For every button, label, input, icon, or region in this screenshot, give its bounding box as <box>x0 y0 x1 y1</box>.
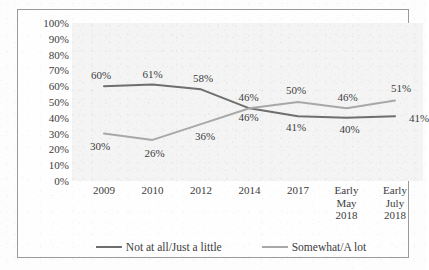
y-axis: 100%90%80%70%60%50%40%30%20%10%0% <box>35 19 72 181</box>
y-axis-tick-label: 50% <box>49 97 69 108</box>
data-label-not-at-all: 60% <box>91 70 111 81</box>
data-label-somewhat: 26% <box>144 147 164 158</box>
data-label-not-at-all: 40% <box>339 123 359 134</box>
data-label-somewhat: 50% <box>286 85 306 96</box>
chart-frame: 60%61%58%46%41%40%41%30%26%36%46%50%46%5… <box>17 9 409 258</box>
legend-label: Not at all/Just a little <box>126 241 222 253</box>
y-axis-tick-label: 60% <box>49 81 69 92</box>
legend-swatch-icon <box>262 246 288 248</box>
x-axis-tick-label: 2012 <box>190 184 212 197</box>
data-label-not-at-all: 41% <box>286 122 306 133</box>
x-axis-tick-label: 2014 <box>239 184 261 197</box>
x-axis-tick-label: 2010 <box>142 184 164 197</box>
data-label-somewhat: 30% <box>90 140 110 151</box>
data-label-somewhat: 36% <box>195 131 215 142</box>
data-label-not-at-all: 58% <box>193 73 213 84</box>
x-axis-tick-label: Early May 2018 <box>335 184 359 222</box>
x-axis-tick-label: Early July 2018 <box>383 184 407 222</box>
y-axis-tick-label: 20% <box>49 144 69 155</box>
y-axis-tick-label: 0% <box>54 176 69 187</box>
data-label-not-at-all: 46% <box>238 112 258 123</box>
x-axis-tick-label: 2017 <box>287 184 309 197</box>
y-axis-tick-label: 10% <box>49 160 69 171</box>
data-label-not-at-all: 61% <box>142 68 162 79</box>
legend-swatch-icon <box>96 246 122 248</box>
y-axis-tick-label: 80% <box>49 49 69 60</box>
x-axis: 20092010201220142017Early May 2018Early … <box>72 184 423 230</box>
y-axis-tick-label: 70% <box>49 65 69 76</box>
x-axis-tick-label: 2009 <box>93 184 115 197</box>
y-axis-tick-label: 40% <box>49 112 69 123</box>
y-axis-tick-label: 30% <box>49 128 69 139</box>
chart-legend: Not at all/Just a little Somewhat/A lot <box>35 238 427 256</box>
plot-area: 60%61%58%46%41%40%41%30%26%36%46%50%46%5… <box>72 23 423 181</box>
data-label-somewhat: 46% <box>337 92 357 103</box>
legend-item-not-at-all: Not at all/Just a little <box>96 241 222 253</box>
legend-item-somewhat: Somewhat/A lot <box>262 241 366 253</box>
legend-label: Somewhat/A lot <box>292 241 366 253</box>
y-axis-tick-label: 100% <box>43 18 69 29</box>
data-label-somewhat: 51% <box>391 83 411 94</box>
y-axis-tick-label: 90% <box>49 33 69 44</box>
data-label-somewhat: 46% <box>238 92 258 103</box>
data-label-not-at-all: 41% <box>409 113 429 124</box>
